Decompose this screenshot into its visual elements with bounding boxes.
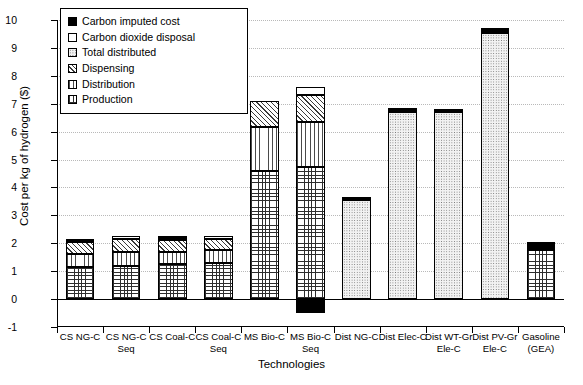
bar-segment[interactable] <box>527 242 556 250</box>
bar-segment[interactable] <box>527 250 556 299</box>
bar-segment[interactable] <box>250 127 279 170</box>
bar-slot <box>388 20 417 327</box>
bar-segment[interactable] <box>434 109 463 112</box>
y-tick-label: 9 <box>0 43 17 53</box>
y-tick-label: -1 <box>0 322 17 332</box>
legend-item-label: Production <box>82 94 133 105</box>
y-tick-label: 1 <box>0 266 17 276</box>
y-tick-label: 0 <box>0 294 17 304</box>
bar-segment[interactable] <box>434 112 463 299</box>
bar-segment[interactable] <box>204 250 233 263</box>
legend-item[interactable]: Total distributed <box>68 45 240 61</box>
y-tick-label: 5 <box>0 155 17 165</box>
bar-segment[interactable] <box>66 239 95 242</box>
bar-segment[interactable] <box>296 95 325 122</box>
legend-item[interactable]: Carbon dioxide disposal <box>68 30 240 46</box>
legend-item-label: Distribution <box>82 79 135 90</box>
bar-segment[interactable] <box>342 200 371 299</box>
legend-swatch-dots-icon <box>68 48 77 57</box>
y-tick-label: 10 <box>0 15 17 25</box>
legend-item-label: Dispensing <box>82 63 134 74</box>
bar-segment[interactable] <box>388 112 417 299</box>
y-tick-label: 4 <box>0 182 17 192</box>
bar-slot <box>250 20 279 327</box>
bar-slot <box>342 20 371 327</box>
x-tick-label-line: Seq <box>191 343 245 355</box>
bar-segment[interactable] <box>296 299 325 313</box>
y-tick-label: 7 <box>0 99 17 109</box>
bar-segment[interactable] <box>250 171 279 299</box>
bar-segment[interactable] <box>112 252 141 266</box>
y-tick-label: 3 <box>0 210 17 220</box>
legend-swatch-diag-icon <box>68 64 77 73</box>
legend-item[interactable]: Distribution <box>68 76 240 92</box>
bar-segment[interactable] <box>158 240 187 251</box>
x-tick-label-line: Seq <box>283 343 337 355</box>
bar-segment[interactable] <box>204 236 233 239</box>
bar-segment[interactable] <box>66 267 95 299</box>
x-tick-label-line: Gasoline <box>514 331 568 343</box>
x-tick-label-line: Seq <box>99 343 153 355</box>
y-tick-label: 2 <box>0 238 17 248</box>
chart-legend: Carbon imputed costCarbon dioxide dispos… <box>60 8 248 114</box>
legend-item-label: Carbon imputed cost <box>82 16 180 27</box>
bar-segment[interactable] <box>250 101 279 128</box>
bar-segment[interactable] <box>204 239 233 250</box>
legend-item-label: Carbon dioxide disposal <box>82 32 195 43</box>
bar-segment[interactable] <box>66 254 95 267</box>
bar-segment[interactable] <box>296 122 325 167</box>
bar-slot <box>527 20 556 327</box>
x-tick-label-line: (GEA) <box>514 343 568 355</box>
bar-segment[interactable] <box>112 266 141 299</box>
bar-segment[interactable] <box>66 242 95 255</box>
bar-segment[interactable] <box>112 239 141 252</box>
y-axis-title: Cost per kg of hydrogen ($) <box>18 36 30 276</box>
legend-swatch-vert-icon <box>68 80 77 89</box>
bar-segment[interactable] <box>158 236 187 240</box>
bar-slot <box>481 20 510 327</box>
bar-segment[interactable] <box>481 28 510 32</box>
legend-item[interactable]: Dispensing <box>68 61 240 77</box>
legend-swatch-grid-icon <box>68 95 77 104</box>
x-tick-label: Gasoline(GEA) <box>514 331 568 354</box>
legend-swatch-white-icon <box>68 33 77 42</box>
bar-segment[interactable] <box>296 167 325 300</box>
chart-figure: Cost per kg of hydrogen ($) -10123456789… <box>0 0 583 385</box>
bar-segment[interactable] <box>342 197 371 200</box>
legend-item[interactable]: Carbon imputed cost <box>68 14 240 30</box>
bar-segment[interactable] <box>112 236 141 239</box>
bar-segment[interactable] <box>296 87 325 95</box>
legend-item[interactable]: Production <box>68 92 240 108</box>
bar-segment[interactable] <box>158 252 187 265</box>
legend-swatch-black-icon <box>68 17 77 26</box>
bar-segment[interactable] <box>204 263 233 299</box>
y-tick-label: 6 <box>0 127 17 137</box>
x-axis-title: Technologies <box>0 358 583 370</box>
bar-segment[interactable] <box>388 108 417 112</box>
bar-segment[interactable] <box>158 264 187 299</box>
bar-slot <box>296 20 325 327</box>
bar-slot <box>434 20 463 327</box>
bar-segment[interactable] <box>481 33 510 300</box>
legend-item-label: Total distributed <box>82 47 156 58</box>
y-tick-label: 8 <box>0 71 17 81</box>
